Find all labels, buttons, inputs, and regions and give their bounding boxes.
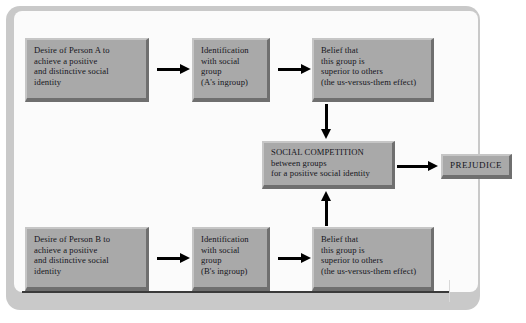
arrow-identification-a-to-belief-a: [278, 68, 302, 71]
box-desire-person-a: Desire of Person A to achieve a positive…: [25, 38, 149, 102]
arrow-belief-a-to-social-competition: [325, 104, 328, 130]
box-line: this group is: [321, 245, 431, 256]
box-prejudice: PREJUDICE: [441, 154, 512, 179]
box-label: PREJUDICE: [450, 160, 502, 171]
box-line: Belief that: [321, 234, 431, 245]
box-line: and distinctive social: [34, 255, 146, 266]
box-line: between groups: [271, 158, 392, 169]
arrow-desire-a-to-identification-a: [157, 68, 181, 71]
box-line: (the us-versus-them effect): [321, 266, 431, 277]
arrow-desire-b-to-identification-b: [157, 257, 181, 260]
box-line: identity: [34, 77, 146, 88]
box-line: Desire of Person A to: [34, 45, 146, 56]
box-line: group: [201, 255, 267, 266]
box-social-competition: SOCIAL COMPETITION between groups for a …: [262, 141, 395, 189]
box-line: superior to others: [321, 66, 431, 77]
box-line: (B's ingroup): [201, 266, 267, 277]
box-line: Identification: [201, 45, 267, 56]
box-line: and distinctive social: [34, 66, 146, 77]
box-line: superior to others: [321, 255, 431, 266]
box-line: this group is: [321, 56, 431, 67]
arrow-identification-b-to-belief-b: [278, 257, 302, 260]
diagram-canvas: Desire of Person A to achieve a positive…: [0, 0, 526, 323]
box-line: with social: [201, 56, 267, 67]
box-line: SOCIAL COMPETITION: [271, 147, 392, 158]
box-desire-person-b: Desire of Person B to achieve a positive…: [25, 227, 149, 291]
box-line: Desire of Person B to: [34, 234, 146, 245]
box-line: (the us-versus-them effect): [321, 77, 431, 88]
frame-right-rule: [449, 280, 450, 302]
box-line: for a positive social identity: [271, 168, 392, 179]
frame-bottom-rule: [22, 291, 450, 293]
box-line: Belief that: [321, 45, 431, 56]
box-line: (A's ingroup): [201, 77, 267, 88]
box-line: identity: [34, 266, 146, 277]
box-line: achieve a positive: [34, 56, 146, 67]
box-identification-a: Identification with social group (A's in…: [192, 38, 270, 102]
box-line: Identification: [201, 234, 267, 245]
box-belief-b: Belief that this group is superior to ot…: [312, 227, 434, 291]
box-line: with social: [201, 245, 267, 256]
box-line: group: [201, 66, 267, 77]
arrow-belief-b-to-social-competition: [325, 200, 328, 226]
box-line: achieve a positive: [34, 245, 146, 256]
arrow-social-competition-to-prejudice: [397, 165, 429, 168]
box-identification-b: Identification with social group (B's in…: [192, 227, 270, 291]
box-belief-a: Belief that this group is superior to ot…: [312, 38, 434, 102]
